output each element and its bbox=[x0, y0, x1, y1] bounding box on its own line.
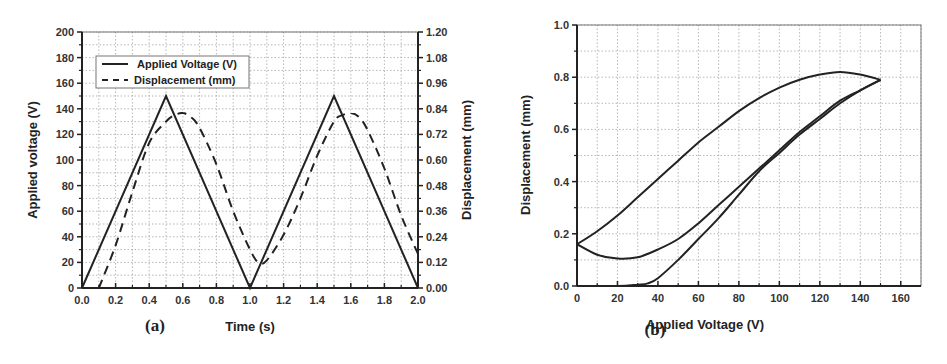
x-tick-label: 2.0 bbox=[410, 294, 425, 306]
y-tick-label: 0.0 bbox=[554, 280, 569, 292]
x-tick-label: 1.6 bbox=[343, 294, 358, 306]
y-tick-label: 100 bbox=[56, 154, 74, 166]
y2-tick-label: 0.24 bbox=[426, 231, 448, 243]
y2-tick-label: 0.72 bbox=[426, 128, 447, 140]
x-tick-label: 40 bbox=[652, 292, 664, 304]
x-tick-label: 1.4 bbox=[310, 294, 326, 306]
x-tick-label: 0 bbox=[574, 292, 580, 304]
panel-label-b: (b) bbox=[645, 320, 666, 339]
series-initial-loading bbox=[577, 80, 881, 286]
x-tick-label: 1.2 bbox=[276, 294, 291, 306]
x-tick-label: 20 bbox=[611, 292, 623, 304]
x-tick-label: 140 bbox=[851, 292, 869, 304]
x-tick-label: 0.4 bbox=[142, 294, 158, 306]
figure: 0.00.20.40.60.81.01.21.41.61.82.00204060… bbox=[0, 0, 947, 364]
series-unloading bbox=[577, 72, 881, 244]
y-tick-label: 0.4 bbox=[554, 176, 570, 188]
legend-entry-voltage: Applied Voltage (V) bbox=[137, 58, 237, 70]
y2-tick-label: 0.12 bbox=[426, 256, 447, 268]
y-tick-label: 140 bbox=[56, 103, 74, 115]
y2-tick-label: 1.08 bbox=[426, 52, 447, 64]
y-tick-label: 0.6 bbox=[554, 123, 569, 135]
x-tick-label: 60 bbox=[692, 292, 704, 304]
y-tick-label: 1.0 bbox=[554, 19, 569, 31]
y2-tick-label: 0.60 bbox=[426, 154, 447, 166]
chart-b-hysteresis: 0204060801001201401600.00.20.40.60.81.0 … bbox=[518, 19, 921, 339]
y-tick-label: 20 bbox=[62, 256, 74, 268]
chart-b-axes: 0204060801001201401600.00.20.40.60.81.0 bbox=[554, 19, 921, 304]
x-tick-label: 0.0 bbox=[74, 294, 89, 306]
x-tick-label: 0.8 bbox=[209, 294, 224, 306]
y-tick-label: 80 bbox=[62, 180, 74, 192]
y2-tick-label: 0.84 bbox=[426, 103, 448, 115]
chart-b-grid bbox=[577, 25, 921, 286]
x-tick-label: 1.8 bbox=[377, 294, 392, 306]
series-applied-voltage-v bbox=[82, 96, 418, 288]
x-tick-label: 0.2 bbox=[108, 294, 123, 306]
legend-entry-displacement: Displacement (mm) bbox=[134, 74, 236, 86]
x-tick-label: 1.0 bbox=[242, 294, 257, 306]
y2-tick-label: 0.00 bbox=[426, 282, 447, 294]
chart-a-legend: Applied Voltage (V) Displacement (mm) bbox=[96, 56, 249, 88]
y-tick-label: 40 bbox=[62, 231, 74, 243]
chart-b-series bbox=[577, 72, 881, 286]
chart-a-y-axis-label: Applied voltage (V) bbox=[25, 101, 40, 219]
x-tick-label: 160 bbox=[892, 292, 910, 304]
y-tick-label: 0.8 bbox=[554, 71, 569, 83]
y-tick-label: 0 bbox=[68, 282, 74, 294]
chart-a-time-series: 0.00.20.40.60.81.01.21.41.61.82.00204060… bbox=[25, 26, 474, 335]
y2-tick-label: 0.48 bbox=[426, 180, 447, 192]
x-tick-label: 80 bbox=[733, 292, 745, 304]
chart-a-series bbox=[82, 96, 418, 288]
y-tick-label: 120 bbox=[56, 128, 74, 140]
chart-b-y-axis-label: Displacement (mm) bbox=[518, 95, 533, 215]
y-tick-label: 0.2 bbox=[554, 228, 569, 240]
x-tick-label: 100 bbox=[770, 292, 788, 304]
x-tick-label: 120 bbox=[811, 292, 829, 304]
y-tick-label: 180 bbox=[56, 52, 74, 64]
panel-label-a: (a) bbox=[145, 316, 165, 335]
y2-tick-label: 0.96 bbox=[426, 77, 447, 89]
chart-a-y2-axis-label: Displacement (mm) bbox=[459, 100, 474, 220]
y-tick-label: 200 bbox=[56, 26, 74, 38]
y2-tick-label: 0.36 bbox=[426, 205, 447, 217]
x-tick-label: 0.6 bbox=[175, 294, 190, 306]
y-tick-label: 60 bbox=[62, 205, 74, 217]
chart-a-x-axis-label: Time (s) bbox=[225, 319, 275, 334]
y2-tick-label: 1.20 bbox=[426, 26, 447, 38]
y-tick-label: 160 bbox=[56, 77, 74, 89]
